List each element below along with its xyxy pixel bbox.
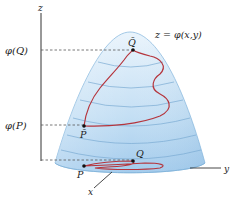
x-axis xyxy=(94,172,112,188)
z-axis-label: z xyxy=(37,3,43,13)
diagram-svg: z x y φ(Q) φ(P) z = φ(x,y) Q̄ P̄ Q P xyxy=(0,0,240,201)
P-bar-label: P̄ xyxy=(79,129,87,140)
phi-Q-label: φ(Q) xyxy=(5,45,28,56)
x-axis-label: x xyxy=(88,187,93,197)
paraboloid-diagram: z x y φ(Q) φ(P) z = φ(x,y) Q̄ P̄ Q P xyxy=(0,0,240,201)
phi-P-label: φ(P) xyxy=(5,120,27,131)
point-P-bar xyxy=(82,124,86,128)
P-label: P xyxy=(76,169,84,180)
point-Q-bar xyxy=(131,48,135,52)
surface-equation-label: z = φ(x,y) xyxy=(154,29,202,40)
Q-label: Q xyxy=(136,148,144,159)
Q-bar-label: Q̄ xyxy=(128,37,136,48)
y-axis-label: y xyxy=(223,164,230,174)
point-Q xyxy=(131,159,135,163)
point-P xyxy=(82,164,86,168)
